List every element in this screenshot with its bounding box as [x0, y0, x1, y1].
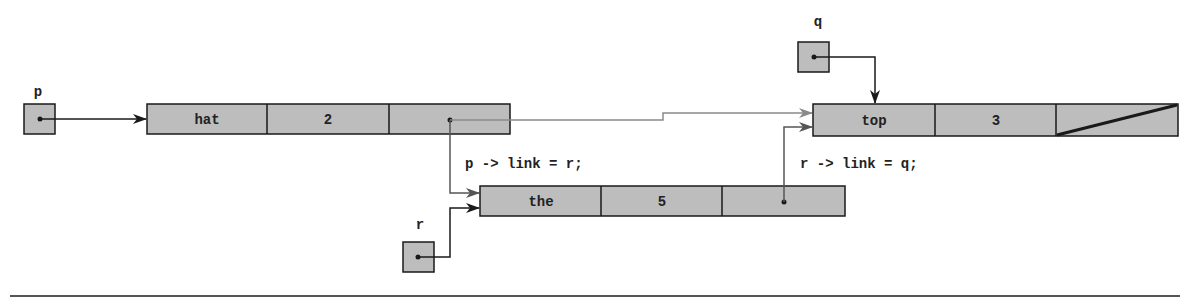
node-the: the 5 — [480, 186, 845, 216]
pointer-q-label: q — [814, 14, 822, 30]
statement-p-link-r: p -> link = r; — [465, 156, 583, 172]
node-top: top 3 — [813, 104, 1178, 136]
statement-r-link-q: r -> link = q; — [800, 156, 918, 172]
node-hat-data: hat — [194, 112, 219, 128]
node-top-count: 3 — [992, 113, 1000, 129]
pointer-p-label: p — [34, 84, 42, 100]
node-hat: hat 2 — [147, 104, 510, 134]
pointer-p: p — [24, 84, 146, 134]
pointer-r-label: r — [416, 217, 424, 233]
linked-list-diagram: p hat 2 p -> link = r; q top 3 — [0, 0, 1198, 304]
node-top-data: top — [861, 113, 886, 129]
node-hat-count: 2 — [324, 112, 332, 128]
pointer-q: q — [798, 14, 875, 103]
pointer-r: r — [403, 208, 479, 272]
node-the-count: 5 — [658, 194, 666, 210]
node-the-data: the — [528, 194, 553, 210]
